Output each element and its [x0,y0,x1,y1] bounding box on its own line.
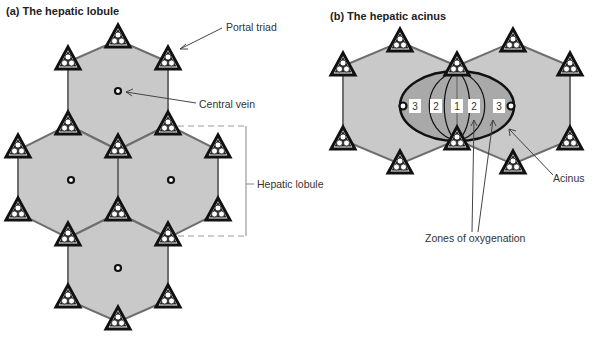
central-vein-icon [115,88,121,94]
zone-2-left: 2 [433,101,439,112]
central-vein-icon [168,177,174,183]
central-vein-icon [68,177,74,183]
label-zones-of-oxygenation: Zones of oxygenation [425,232,526,244]
central-vein-icon [508,103,515,110]
panel-a: (a) The hepatic lobule [6,5,324,329]
zone-1: 1 [454,101,460,112]
zone-2-right: 2 [471,101,477,112]
label-portal-triad: Portal triad [226,21,277,33]
zone-3-left: 3 [412,101,418,112]
panel-b-title: (b) The hepatic acinus [330,10,446,22]
label-acinus: Acinus [553,172,585,184]
label-hepatic-lobule: Hepatic lobule [257,178,324,190]
zone-3-right: 3 [496,101,502,112]
portal-triad-arrow [180,28,222,49]
hepatic-diagram: (a) The hepatic lobule [0,0,601,338]
label-central-vein: Central vein [199,98,255,110]
central-vein-icon [115,265,121,271]
panel-b: (b) The hepatic acinus 3 2 1 2 [330,10,585,244]
central-vein-icon [400,103,407,110]
panel-a-title: (a) The hepatic lobule [6,5,119,17]
